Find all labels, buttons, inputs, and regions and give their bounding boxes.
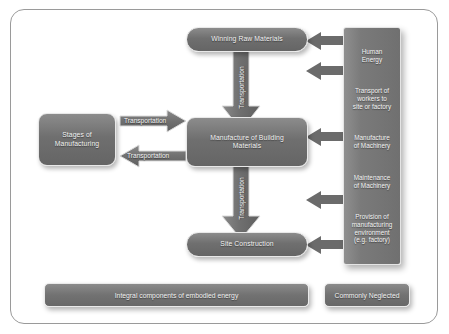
node-site-construction[interactable]: Site Construction [186, 232, 308, 257]
column-item-human-energy: Human Energy [362, 47, 383, 64]
legend-bar-integral-components[interactable]: Integral components of embodied energy [44, 283, 309, 307]
arrow-transportation-right [120, 110, 186, 132]
node-label-stages-of-manufacturing: Stages of Manufacturing [45, 131, 109, 147]
column-item-transport-of-workers: Transport of workers to site or factory [353, 86, 391, 111]
legend-bar-commonly-neglected[interactable]: Commonly Neglected [324, 283, 410, 307]
diagram-canvas: Transportation Transportation [0, 0, 449, 334]
inputs-column-commonly-neglected[interactable]: Human Energy Transport of workers to sit… [343, 27, 401, 265]
column-item-provision-of-environment: Provision of manufacturing environment (… [352, 212, 393, 245]
node-winning-raw-materials[interactable]: Winning Raw Materials [186, 27, 308, 52]
arrow-transportation-down-bottom [222, 163, 260, 239]
node-label-manufacture-of-building-materials: Manufacture of Building Materials [195, 134, 299, 150]
arrow-transportation-left [120, 145, 186, 167]
column-item-maintenance-of-machinery: Maintenance of Machinery [354, 173, 391, 190]
node-label-winning-raw-materials: Winning Raw Materials [211, 35, 283, 43]
column-item-manufacture-of-machinery: Manufacture of Machinery [354, 133, 391, 150]
legend-label-commonly-neglected: Commonly Neglected [335, 292, 400, 299]
node-manufacture-of-building-materials[interactable]: Manufacture of Building Materials [186, 117, 308, 167]
node-label-site-construction: Site Construction [220, 240, 273, 248]
legend-label-integral-components: Integral components of embodied energy [115, 292, 239, 299]
node-stages-of-manufacturing[interactable]: Stages of Manufacturing [38, 113, 116, 166]
